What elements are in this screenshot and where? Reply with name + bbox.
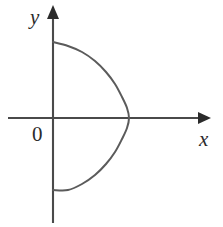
x-axis-arrowhead-icon	[198, 112, 211, 124]
y-axis-arrowhead-icon	[47, 5, 59, 19]
coordinate-plane-diagram: y x 0	[0, 0, 223, 227]
parabola-curve	[53, 42, 129, 190]
x-axis-label: x	[198, 127, 209, 151]
figure-canvas: y x 0	[0, 0, 223, 227]
origin-label: 0	[32, 122, 43, 146]
y-axis-label: y	[28, 5, 40, 29]
